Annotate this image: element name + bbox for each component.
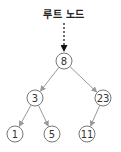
tree-node-5: 5	[44, 126, 60, 142]
tree-canvas: 83231511	[0, 0, 121, 152]
edge-23-to-11	[91, 105, 100, 125]
node-value: 1	[12, 129, 18, 140]
root-node-label: 루트 노드	[0, 6, 121, 21]
edge-3-to-1	[19, 105, 31, 126]
node-value: 8	[61, 56, 67, 67]
tree-node-23: 23	[95, 90, 111, 106]
tree-node-11: 11	[79, 126, 95, 142]
node-value: 23	[97, 93, 110, 104]
node-value: 5	[49, 129, 55, 140]
nodes: 83231511	[7, 53, 111, 142]
tree-node-8: 8	[56, 53, 72, 69]
node-value: 11	[81, 129, 94, 140]
tree-diagram: 루트 노드 83231511	[0, 0, 121, 152]
tree-node-1: 1	[7, 126, 23, 142]
edge-8-to-3	[41, 67, 60, 91]
edge-3-to-5	[38, 105, 48, 126]
edge-8-to-23	[70, 67, 97, 92]
tree-node-3: 3	[27, 90, 43, 106]
node-value: 3	[32, 93, 38, 104]
